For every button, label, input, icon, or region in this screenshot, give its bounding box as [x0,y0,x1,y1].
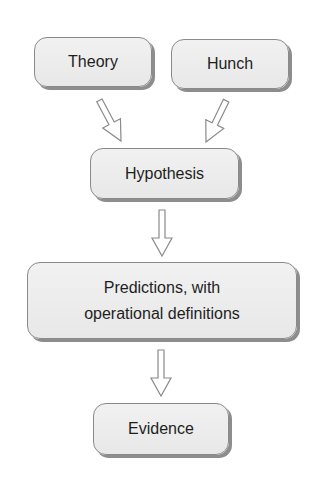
arrow-theory-to-hypothesis [91,96,130,146]
arrow-predictions-to-evidence [151,350,171,396]
node-predictions-label-line1: Predictions, with [104,275,221,301]
node-hunch: Hunch [171,39,289,89]
node-predictions: Predictions, with operational definition… [27,262,297,339]
node-hypothesis-label: Hypothesis [125,163,204,185]
node-theory: Theory [34,37,152,87]
node-evidence: Evidence [93,403,229,455]
arrow-hunch-to-hypothesis [197,96,235,146]
node-hypothesis: Hypothesis [90,148,239,199]
node-evidence-label: Evidence [128,418,194,440]
node-theory-label: Theory [68,51,118,73]
arrow-hypothesis-to-predictions [152,210,172,256]
node-predictions-label-line2: operational definitions [84,301,240,327]
node-hunch-label: Hunch [207,53,253,75]
